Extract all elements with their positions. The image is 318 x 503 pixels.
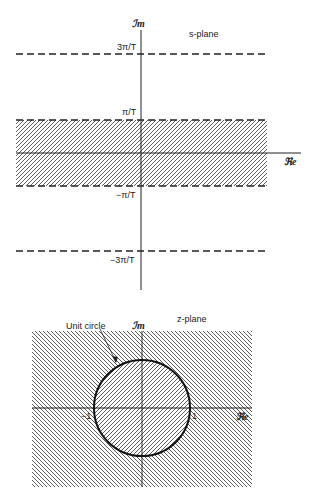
s-plane-title: s-plane: [189, 29, 219, 39]
tick-neg-1: −1: [81, 411, 91, 421]
s-real-axis-label: ℜe: [284, 156, 297, 167]
tick-3pi-over-t: 3π/T: [117, 42, 137, 52]
z-plane: Unit circle ℐm z-plane −1 1 ℜe: [32, 314, 252, 487]
z-real-axis-label: ℜe: [236, 411, 249, 422]
diagram-canvas: ℐm s-plane 3π/T π/T ℜe −π/T −3π/T Unit c…: [0, 0, 318, 503]
tick-pos-1: 1: [192, 411, 197, 421]
s-plane: ℐm s-plane 3π/T π/T ℜe −π/T −3π/T: [16, 18, 301, 290]
tick-pi-over-t: π/T: [122, 107, 137, 117]
unit-circle-label: Unit circle: [66, 321, 106, 331]
tick-neg-3pi-over-t: −3π/T: [110, 255, 135, 265]
tick-neg-pi-over-t: −π/T: [116, 190, 136, 200]
z-plane-title: z-plane: [177, 314, 207, 324]
z-imag-axis-label: ℐm: [132, 320, 145, 331]
s-imag-axis-label: ℐm: [132, 18, 145, 29]
